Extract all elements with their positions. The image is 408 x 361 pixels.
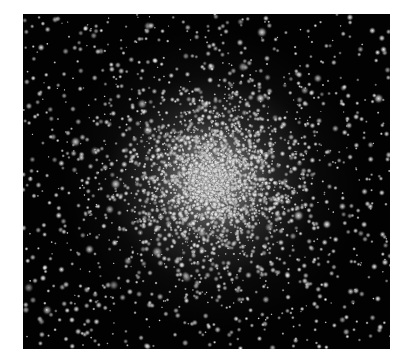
star-field-image xyxy=(23,14,390,349)
stars-layer xyxy=(23,14,390,349)
